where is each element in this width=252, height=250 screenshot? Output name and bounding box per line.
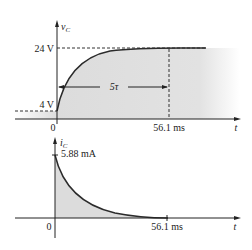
current-origin-label: 0 [47, 221, 52, 232]
voltage-time-marker-label: 56.1 ms [153, 122, 185, 133]
five-tau-label: 5τ [110, 81, 119, 92]
voltage-axis-label: vC [61, 21, 70, 34]
current-shaded-area [55, 155, 168, 218]
rc-transient-diagram: 5τ vC 24 V 4 V 0 56.1 ms t iC 5.8 [0, 0, 252, 250]
current-time-marker-label: 56.1 ms [151, 221, 183, 232]
initial-value-label: 4 V [39, 99, 54, 110]
voltage-chart: 5τ vC 24 V 4 V 0 56.1 ms t [15, 20, 241, 133]
y-axis-arrow-icon [55, 20, 59, 27]
voltage-shaded-area [57, 48, 240, 119]
current-time-axis-label: t [234, 221, 237, 232]
current-y-axis-arrow-icon [53, 137, 57, 144]
voltage-origin-label: 0 [51, 122, 56, 133]
final-value-label: 24 V [34, 43, 54, 54]
current-x-axis-arrow-icon [234, 216, 241, 220]
voltage-time-axis-label: t [235, 122, 238, 133]
peak-value-label: 5.88 mA [61, 148, 97, 159]
pre-zero-shaded-area [15, 111, 57, 119]
current-chart: iC 5.88 mA 0 56.1 ms t [15, 137, 241, 238]
arrowhead-left-icon [58, 85, 64, 89]
